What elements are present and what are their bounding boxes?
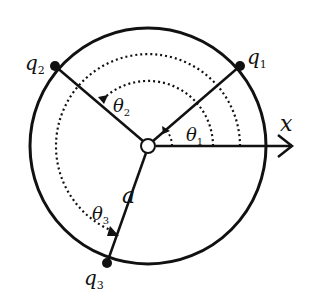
x-axis bbox=[156, 135, 292, 157]
theta1-arc bbox=[166, 130, 172, 146]
x-axis-label: x bbox=[280, 111, 293, 136]
charge-q3-label: q3 bbox=[84, 266, 104, 292]
radius-to-q3 bbox=[107, 153, 146, 263]
theta2-label: θ2 bbox=[113, 95, 130, 118]
theta3-label: θ3 bbox=[92, 203, 109, 226]
theta1-label: θ1 bbox=[186, 124, 203, 147]
charge-q1-dot bbox=[235, 61, 245, 71]
origin-marker bbox=[141, 139, 155, 153]
charge-q3-dot bbox=[102, 258, 112, 268]
charge-q1-label: q1 bbox=[247, 45, 267, 71]
radius-label-a: a bbox=[122, 183, 135, 208]
charges-on-circle-diagram: q1 q2 q3 θ1 θ2 θ3 a x bbox=[0, 0, 311, 305]
charge-q2-label: q2 bbox=[25, 51, 45, 77]
charge-q2-dot bbox=[50, 61, 60, 71]
radius-to-q2 bbox=[55, 66, 143, 141]
